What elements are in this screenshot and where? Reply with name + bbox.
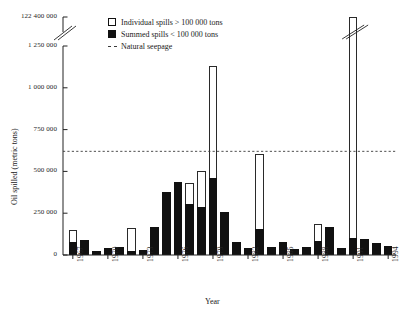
x-axis-title: Year: [205, 297, 220, 306]
y-tick-label: 750 000: [34, 125, 57, 133]
legend-label: Individual spills > 100 000 tons: [121, 18, 223, 27]
legend-label: Natural seepage: [121, 42, 172, 51]
bar-summed-spill: [267, 247, 276, 255]
bar-summed-spill: [232, 242, 241, 255]
x-tick-label: 1994: [391, 246, 400, 262]
x-tick-label: 1973: [146, 246, 155, 262]
y-tick-label: 122 400 000: [21, 12, 57, 20]
legend-entry-summed-spills: Summed spills < 100 000 tons: [108, 30, 218, 39]
x-tick-label: 1988: [321, 246, 330, 262]
bar-summed-spill: [127, 251, 136, 255]
bar-summed-spill: [162, 192, 171, 255]
y-tick-label: 1 000 000: [28, 83, 57, 91]
bar-summed-spill: [174, 182, 183, 255]
y-axis-title: Oil spilled (metric tons): [10, 128, 19, 205]
x-tick-label: 1979: [216, 246, 225, 262]
x-tick-label: 1970: [111, 246, 120, 262]
bar-summed-spill: [197, 207, 206, 255]
y-tick-label: 250 000: [34, 208, 57, 216]
filled-square-icon: [108, 30, 116, 38]
x-tick-label: 1976: [181, 246, 190, 262]
dashed-line-icon: [108, 42, 117, 50]
y-tick-label: 0: [53, 250, 57, 258]
y-tick-label: 500 000: [34, 166, 57, 174]
oil-spill-bar-chart: Oil spilled (metric tons) Year Individua…: [0, 0, 411, 314]
bar-summed-spill: [372, 243, 381, 255]
x-tick-label: 1967: [76, 246, 85, 262]
x-tick-label: 1991: [356, 246, 365, 262]
open-square-icon: [108, 18, 116, 26]
legend-entry-natural-seepage: Natural seepage: [108, 42, 172, 51]
legend-entry-individual-spills: Individual spills > 100 000 tons: [108, 18, 223, 27]
bar-summed-spill: [209, 178, 218, 255]
bar-summed-spill: [337, 248, 346, 255]
x-tick-label: 1985: [286, 246, 295, 262]
x-tick-label: 1982: [251, 246, 260, 262]
bar-individual-spill: [349, 17, 358, 255]
y-tick-label: 1 250 000: [28, 41, 57, 49]
bar-summed-spill: [92, 251, 101, 255]
legend-label: Summed spills < 100 000 tons: [121, 30, 218, 39]
bar-summed-spill: [302, 247, 311, 255]
